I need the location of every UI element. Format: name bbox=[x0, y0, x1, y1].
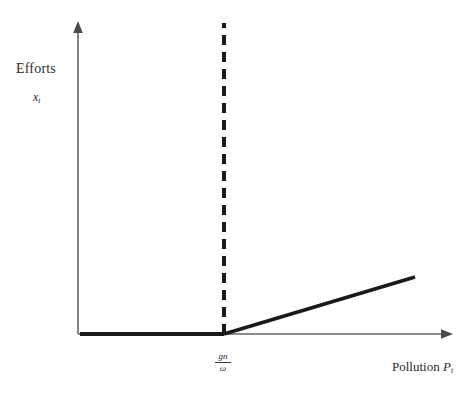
y-axis-variable: xt bbox=[33, 90, 41, 105]
threshold-tick-label: gn ω bbox=[206, 352, 240, 374]
x-axis-variable-subscript: t bbox=[451, 366, 453, 375]
x-axis-variable-symbol: P bbox=[443, 359, 451, 374]
y-axis-variable-subscript: t bbox=[38, 96, 40, 105]
x-axis-arrowhead bbox=[441, 329, 453, 339]
sloped-segment bbox=[224, 277, 415, 334]
x-axis-title-text: Pollution bbox=[392, 359, 440, 374]
threshold-denominator: ω bbox=[206, 364, 240, 373]
x-axis-title: Pollution Pt bbox=[392, 359, 453, 375]
y-axis-title: Efforts bbox=[16, 61, 56, 77]
threshold-numerator: gn bbox=[206, 352, 240, 362]
y-axis-arrowhead bbox=[73, 21, 83, 33]
effort-pollution-chart bbox=[0, 0, 474, 402]
